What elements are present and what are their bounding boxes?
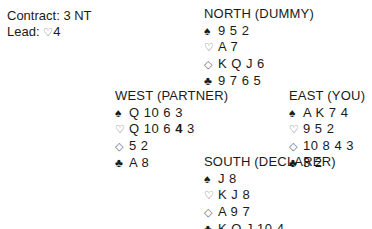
east-diamonds: ◇10 8 4 3 <box>289 138 365 155</box>
spade-icon: ♠ <box>204 23 218 40</box>
north-spades: ♠9 5 2 <box>204 23 314 40</box>
lead-label: Lead: <box>7 24 40 39</box>
south-hand: SOUTH (DECLARER) ♠J 8 ♡K J 8 ◇A 9 7 ♣K Q… <box>204 154 336 229</box>
spade-icon: ♠ <box>204 171 218 188</box>
heart-icon: ♡ <box>289 121 303 138</box>
east-spades: ♠A K 7 4 <box>289 105 365 122</box>
north-hand: NORTH (DUMMY) ♠9 5 2 ♡A 7 ◇K Q J 6 ♣9 7 … <box>204 6 314 90</box>
north-diamonds: ◇K Q J 6 <box>204 56 314 73</box>
club-icon: ♣ <box>204 73 218 90</box>
lead-line: Lead: ♡4 <box>7 24 92 40</box>
contract-line: Contract: 3 NT <box>7 8 92 24</box>
heart-icon: ♡ <box>115 121 129 138</box>
contract-value: 3 NT <box>63 8 91 23</box>
north-clubs: ♣9 7 6 5 <box>204 73 314 90</box>
west-spades: ♠Q 10 6 3 <box>115 105 228 122</box>
lead-card-highlight: 4 <box>175 121 183 136</box>
diamond-icon: ◇ <box>289 138 303 155</box>
south-title: SOUTH (DECLARER) <box>204 154 336 171</box>
north-hearts: ♡A 7 <box>204 39 314 56</box>
south-hearts: ♡K J 8 <box>204 187 336 204</box>
contract-label: Contract: <box>7 8 60 23</box>
spade-icon: ♠ <box>289 105 303 122</box>
south-spades: ♠J 8 <box>204 171 336 188</box>
south-diamonds: ◇A 9 7 <box>204 204 336 221</box>
north-title: NORTH (DUMMY) <box>204 6 314 23</box>
spade-icon: ♠ <box>115 105 129 122</box>
heart-icon: ♡ <box>43 24 53 40</box>
east-title: EAST (YOU) <box>289 88 365 105</box>
west-title: WEST (PARTNER) <box>115 88 228 105</box>
east-hearts: ♡9 5 2 <box>289 121 365 138</box>
south-clubs: ♣K Q J 10 4 <box>204 221 336 229</box>
heart-icon: ♡ <box>204 39 218 56</box>
lead-card: 4 <box>53 24 60 39</box>
diamond-icon: ◇ <box>204 204 218 221</box>
club-icon: ♣ <box>204 221 218 229</box>
diamond-icon: ◇ <box>204 56 218 73</box>
west-hearts: ♡Q 10 6 4 3 <box>115 121 228 138</box>
deal-info: Contract: 3 NT Lead: ♡4 <box>7 8 92 40</box>
heart-icon: ♡ <box>204 187 218 204</box>
west-diamonds: ◇5 2 <box>115 138 228 155</box>
club-icon: ♣ <box>115 155 129 172</box>
diamond-icon: ◇ <box>115 138 129 155</box>
